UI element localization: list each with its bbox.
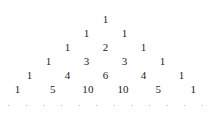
- triangle-row-0: 1: [0, 12, 211, 26]
- triangle-row-1: 11: [0, 26, 211, 40]
- triangle-cell: 1: [125, 40, 163, 54]
- triangle-cell: 1: [106, 26, 144, 40]
- triangle-cell: 5: [35, 82, 70, 96]
- ellipsis-dot: .: [53, 96, 71, 110]
- triangle-cell: 1: [68, 26, 106, 40]
- triangle-row-5: 15101051: [0, 82, 211, 96]
- ellipsis-dot: .: [0, 96, 18, 110]
- ellipsis-dot: .: [70, 96, 88, 110]
- triangle-row-4: 14641: [0, 68, 211, 82]
- ellipsis-dot: .: [141, 96, 159, 110]
- triangle-cell: 1: [49, 40, 87, 54]
- triangle-cell: 1: [176, 82, 211, 96]
- triangle-cell: 6: [87, 68, 125, 82]
- triangle-ellipsis-row: ............: [0, 96, 211, 110]
- triangle-cell: 2: [87, 40, 125, 54]
- triangle-cell: 3: [68, 54, 106, 68]
- ellipsis-dot: .: [123, 96, 141, 110]
- triangle-cell: 4: [125, 68, 163, 82]
- pascals-triangle-figure: 11112113311464115101051............: [0, 0, 211, 114]
- triangle-cell: 4: [49, 68, 87, 82]
- triangle-cell: 1: [0, 82, 35, 96]
- triangle-cell: 1: [144, 54, 182, 68]
- ellipsis-dot: .: [35, 96, 53, 110]
- triangle-cell: 5: [141, 82, 176, 96]
- triangle-cell: 1: [11, 68, 49, 82]
- ellipsis-dot: .: [158, 96, 176, 110]
- triangle-cell: 1: [30, 54, 68, 68]
- ellipsis-dot: .: [176, 96, 194, 110]
- ellipsis-dot: .: [106, 96, 124, 110]
- ellipsis-dot: .: [193, 96, 211, 110]
- triangle-row-3: 1331: [0, 54, 211, 68]
- triangle-cell: 3: [106, 54, 144, 68]
- triangle-cell: 10: [70, 82, 105, 96]
- triangle-cell: 1: [87, 12, 125, 26]
- triangle-cell: 10: [106, 82, 141, 96]
- ellipsis-dot: .: [88, 96, 106, 110]
- ellipsis-dot: .: [18, 96, 36, 110]
- triangle-cell: 1: [163, 68, 201, 82]
- triangle-row-2: 121: [0, 40, 211, 54]
